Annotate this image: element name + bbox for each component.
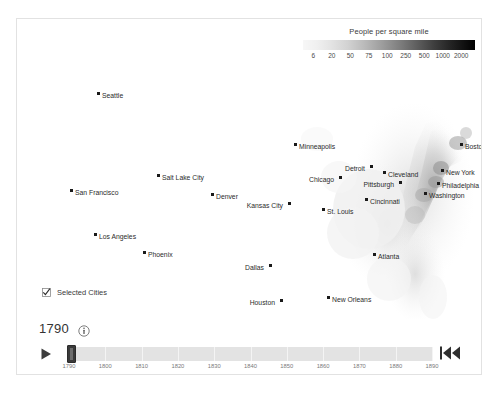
selected-cities-label: Selected Cities (57, 288, 107, 297)
timeline-control: 1790 (17, 319, 481, 375)
selected-cities-toggle[interactable]: Selected Cities (42, 288, 107, 297)
city-dot-icon (94, 233, 97, 236)
city-dot-icon (327, 296, 330, 299)
city-label: Pittsburgh (363, 181, 394, 188)
legend-tick: 75 (365, 52, 372, 59)
timeline-handle[interactable] (67, 345, 76, 363)
city-label: Washington (429, 192, 465, 199)
city-label: Philadelphia (442, 182, 479, 189)
timeline-slider-row: 1790180018101820183018401850186018701880… (39, 344, 465, 374)
checkbox-checked-icon[interactable] (42, 288, 51, 297)
city-label: Phoenix (148, 251, 173, 258)
skip-to-start-icon[interactable] (439, 345, 461, 361)
legend-tick: 500 (419, 52, 430, 59)
play-icon[interactable] (39, 347, 53, 361)
timeline-segment-divider (323, 347, 324, 361)
info-icon[interactable] (78, 323, 90, 335)
city-label: Chicago (309, 176, 334, 183)
city-dot-icon (441, 169, 444, 172)
legend-tick: 50 (347, 52, 354, 59)
city-label: Salt Lake City (162, 174, 204, 181)
city-label: Denver (216, 193, 238, 200)
timeline-tick: 1830 (208, 363, 221, 369)
legend-tick: 250 (400, 52, 411, 59)
timeline-segment-divider (359, 347, 360, 361)
timeline-tick: 1850 (280, 363, 293, 369)
timeline-segment-divider (251, 347, 252, 361)
city-label: Dallas (245, 264, 264, 271)
timeline-tick: 1800 (99, 363, 112, 369)
timeline-segment-divider (214, 347, 215, 361)
city-label: Houston (250, 299, 275, 306)
timeline-tick: 1790 (63, 363, 76, 369)
city-dot-icon (365, 198, 368, 201)
city-dot-icon (294, 143, 297, 146)
map-canvas[interactable]: People per square mile 62050751002505001… (17, 19, 481, 319)
city-dot-icon (370, 165, 373, 168)
city-label: New Orleans (332, 296, 371, 303)
year-display-row: 1790 (39, 321, 90, 336)
city-dot-icon (280, 299, 283, 302)
city-label: Cleveland (388, 171, 418, 178)
timeline-segment-divider (287, 347, 288, 361)
city-dot-icon (339, 176, 342, 179)
city-label: Kansas City (247, 202, 283, 209)
timeline-segment-divider (396, 347, 397, 361)
timeline-tick: 1880 (389, 363, 402, 369)
city-label: Boston (465, 143, 481, 150)
city-dot-icon (97, 92, 100, 95)
timeline-tick: 1810 (135, 363, 148, 369)
city-dot-icon (383, 171, 386, 174)
city-dot-icon (157, 174, 160, 177)
legend-tick: 20 (328, 52, 335, 59)
city-dot-icon (143, 251, 146, 254)
city-label: Minneapolis (299, 143, 335, 150)
density-choropleth (17, 19, 481, 319)
city-dot-icon (269, 264, 272, 267)
city-label: Los Angeles (99, 233, 136, 240)
population-density-map-app: People per square mile 62050751002505001… (0, 0, 498, 394)
timeline-segment-divider (178, 347, 179, 361)
density-legend: People per square mile 62050751002505001… (303, 27, 475, 64)
city-dot-icon (437, 182, 440, 185)
city-dot-icon (399, 181, 402, 184)
current-year-label: 1790 (39, 321, 69, 336)
timeline-tick: 1840 (244, 363, 257, 369)
city-label: Detroit (345, 165, 365, 172)
timeline-tick: 1890 (426, 363, 439, 369)
city-dot-icon (424, 192, 427, 195)
legend-tick: 6 (312, 52, 316, 59)
city-label: Seattle (102, 92, 123, 99)
legend-tick: 100 (382, 52, 393, 59)
legend-tick-labels: 620507510025050010002000 (303, 52, 475, 64)
city-label: Atlanta (378, 253, 399, 260)
visualization-panel: People per square mile 62050751002505001… (16, 18, 482, 375)
timeline-segment-divider (432, 347, 433, 361)
city-label: Cincinnati (370, 198, 400, 205)
city-dot-icon (288, 202, 291, 205)
legend-tick: 2000 (454, 52, 468, 59)
timeline-segment-divider (142, 347, 143, 361)
timeline-tick: 1870 (353, 363, 366, 369)
timeline-tick: 1860 (317, 363, 330, 369)
timeline-segment-divider (105, 347, 106, 361)
city-label: St. Louis (327, 208, 353, 215)
legend-title: People per square mile (303, 27, 475, 37)
city-dot-icon (70, 189, 73, 192)
legend-gradient-bar (303, 40, 475, 50)
city-label: New York (446, 169, 475, 176)
timeline-tick: 1820 (171, 363, 184, 369)
legend-tick: 1000 (436, 52, 450, 59)
city-dot-icon (373, 253, 376, 256)
timeline-track[interactable] (69, 347, 432, 361)
city-dot-icon (211, 193, 214, 196)
city-dot-icon (322, 208, 325, 211)
timeline-tick-labels: 1790180018101820183018401850186018701880… (69, 363, 432, 375)
city-dot-icon (460, 143, 463, 146)
city-label: San Francisco (75, 189, 118, 196)
